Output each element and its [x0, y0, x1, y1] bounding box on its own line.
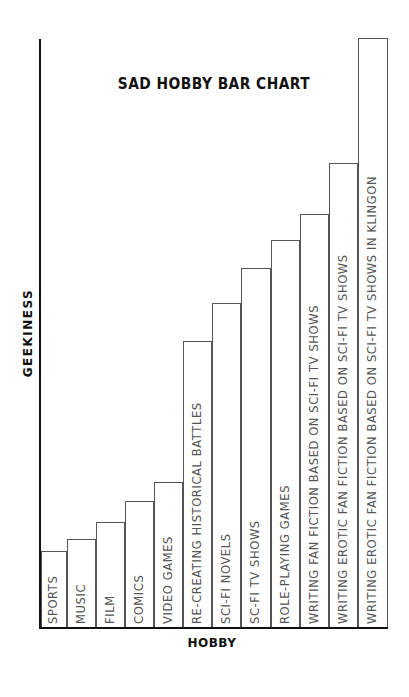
bar-label: WRITING FAN FICTION BASED ON SCI-FI TV S…	[309, 305, 321, 624]
bar: COMICS	[125, 501, 154, 627]
bar: MUSIC	[67, 539, 96, 627]
x-axis-label: HOBBY	[187, 636, 236, 650]
bar-label: MUSIC	[76, 584, 88, 624]
bar: WRITING EROTIC FAN FICTION BASED ON SCI-…	[329, 163, 358, 627]
bar: WRITING EROTIC FAN FICTION BASED ON SCI-…	[358, 38, 388, 627]
bar-chart: SAD HOBBY BAR CHART GEEKINESS HOBBY SPOR…	[0, 0, 409, 697]
bar: RE-CREATING HISTORICAL BATTLES	[183, 341, 212, 627]
bar: FILM	[96, 522, 125, 627]
y-axis-label: GEEKINESS	[21, 289, 35, 378]
bar: VIDEO GAMES	[154, 482, 183, 627]
bar: ROLE-PLAYING GAMES	[271, 240, 300, 627]
bar-label: SPORTS	[48, 576, 60, 624]
bar-label: SC-FI TV SHOWS	[250, 520, 262, 624]
y-axis-line	[39, 39, 41, 629]
bar-label: WRITING EROTIC FAN FICTION BASED ON SCI-…	[367, 176, 379, 624]
bar-label: RE-CREATING HISTORICAL BATTLES	[192, 402, 204, 624]
bar-label: WRITING EROTIC FAN FICTION BASED ON SCI-…	[338, 254, 350, 624]
bar-label: FILM	[105, 595, 117, 624]
bar: SCI-FI NOVELS	[212, 303, 241, 627]
x-axis-line	[39, 627, 388, 629]
bar-label: ROLE-PLAYING GAMES	[280, 485, 292, 624]
bar-label: SCI-FI NOVELS	[221, 533, 233, 624]
bar-label: VIDEO GAMES	[163, 536, 175, 624]
bar-label: COMICS	[134, 575, 146, 624]
bar: WRITING FAN FICTION BASED ON SCI-FI TV S…	[300, 214, 329, 627]
bar: SPORTS	[41, 551, 67, 627]
chart-title: SAD HOBBY BAR CHART	[116, 75, 311, 93]
bar: SC-FI TV SHOWS	[241, 268, 271, 627]
